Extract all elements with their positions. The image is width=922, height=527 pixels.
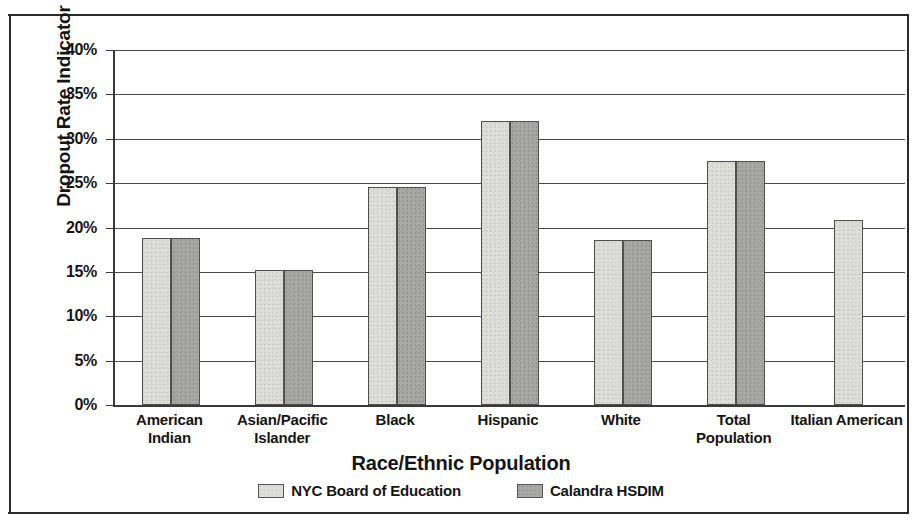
x-axis-category-label: Total Population <box>677 411 790 447</box>
x-axis-category-label: American Indian <box>113 411 226 447</box>
chart-legend: NYC Board of EducationCalandra HSDIM <box>0 482 922 499</box>
y-axis-tick-label: 20% <box>41 220 97 236</box>
y-axis-tick <box>106 139 115 140</box>
x-axis-category-label: Asian/Pacific Islander <box>226 411 339 447</box>
y-axis-tick-label: 10% <box>41 308 97 324</box>
figure-border-left <box>9 14 11 514</box>
legend-item: NYC Board of Education <box>258 482 461 499</box>
y-axis-tick-label: 25% <box>41 175 97 191</box>
gridline <box>115 50 905 51</box>
bar-group <box>566 240 679 405</box>
bar <box>707 161 736 405</box>
y-axis-tick-label: 30% <box>41 131 97 147</box>
x-axis-category-label: Hispanic <box>452 411 565 429</box>
y-axis-tick-label: 35% <box>41 86 97 102</box>
bar-group <box>228 270 341 405</box>
bar <box>594 240 623 405</box>
legend-label: Calandra HSDIM <box>550 482 664 499</box>
light-gray-swatch <box>258 484 284 498</box>
bar-group <box>454 121 567 405</box>
bar <box>397 187 426 405</box>
x-axis-title: Race/Ethnic Population <box>0 452 922 475</box>
y-axis-tick-label: 5% <box>41 353 97 369</box>
y-axis-tick <box>106 316 115 317</box>
y-axis-tick <box>106 94 115 95</box>
bar <box>142 238 171 405</box>
legend-item: Calandra HSDIM <box>517 482 664 499</box>
bar-group <box>341 187 454 405</box>
y-axis-tick <box>106 50 115 51</box>
y-axis-tick <box>106 405 115 406</box>
y-axis-tick <box>106 272 115 273</box>
bar <box>834 220 863 405</box>
bar-group <box>115 238 228 405</box>
y-axis-tick <box>106 183 115 184</box>
y-axis-title: Dropout Rate Indicator <box>53 0 75 256</box>
y-axis-tick <box>106 228 115 229</box>
legend-label: NYC Board of Education <box>291 482 461 499</box>
bar <box>171 238 200 405</box>
bar <box>284 270 313 405</box>
figure-border-top <box>8 14 908 16</box>
x-axis-category-label: Italian American <box>790 411 903 429</box>
bar <box>623 240 652 405</box>
y-axis-tick-label: 40% <box>41 42 97 58</box>
chart-figure: Dropout Rate Indicator 40%35%30%25%20%15… <box>0 0 922 527</box>
y-axis-tick-label: 15% <box>41 264 97 280</box>
figure-border-bottom <box>8 512 908 514</box>
bar <box>255 270 284 405</box>
plot-area <box>113 50 905 407</box>
y-axis-tick-label: 0% <box>41 397 97 413</box>
bar <box>368 187 397 405</box>
dark-gray-swatch <box>517 484 543 498</box>
y-axis-tick <box>106 361 115 362</box>
x-axis-category-label: Black <box>339 411 452 429</box>
bar <box>510 121 539 405</box>
gridline <box>115 94 905 95</box>
bar-group <box>679 161 792 405</box>
bar <box>736 161 765 405</box>
bar <box>481 121 510 405</box>
x-axis-category-label: White <box>564 411 677 429</box>
figure-border-right <box>907 14 909 514</box>
bar-group <box>792 220 905 405</box>
